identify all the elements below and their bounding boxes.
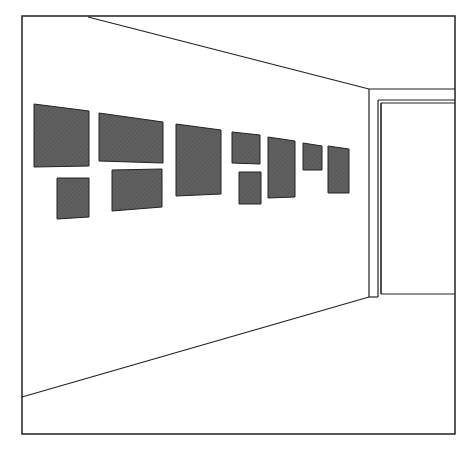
picture-group: [34, 104, 349, 219]
ceiling-line: [88, 17, 369, 89]
framed-picture: [268, 137, 295, 198]
framed-picture: [112, 169, 162, 211]
end-wall-doorway: [369, 89, 455, 297]
framed-picture: [232, 132, 260, 164]
floor-line: [22, 297, 369, 397]
framed-picture: [99, 113, 163, 163]
framed-picture: [176, 124, 221, 196]
framed-picture: [57, 178, 89, 219]
border-frame: [22, 16, 455, 434]
framed-picture: [328, 146, 349, 193]
framed-picture: [239, 172, 261, 204]
framed-picture: [34, 104, 89, 167]
framed-picture: [303, 143, 322, 170]
gallery-illustration: [0, 0, 465, 450]
